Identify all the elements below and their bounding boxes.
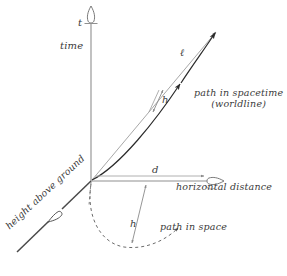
horizontal-distance-label: horizontal distance (176, 182, 272, 193)
worldline-segment-upper (181, 33, 215, 83)
h-lower-measure (132, 185, 146, 243)
time-axis-arrowhead-icon (87, 6, 94, 23)
height-axis-line-lower (17, 222, 49, 253)
d-measure-label: d (152, 164, 159, 175)
height-axis-line-upper (62, 181, 91, 209)
path-in-space-arc (90, 184, 178, 248)
spacetime-diagram: t time ℓ h path in spacetime (worldline)… (0, 0, 287, 276)
path-in-space-label: path in space (160, 222, 227, 233)
time-axis-symbol-label: t (78, 17, 82, 28)
height-axis-arrowhead-icon (48, 211, 62, 222)
worldline-label: path in spacetime (worldline) (194, 88, 283, 109)
diagram-canvas (0, 0, 287, 276)
worldline-label-sub: (worldline) (194, 99, 283, 110)
h-upper-label: h (162, 94, 169, 105)
h-upper-guide (149, 90, 159, 112)
worldline-label-main: path in spacetime (194, 87, 283, 98)
interval-length-label: ℓ (180, 47, 184, 58)
h-lower-double-arrow (132, 185, 146, 243)
h-lower-label: h (130, 218, 137, 229)
time-axis-name-label: time (60, 40, 83, 51)
time-axis (85, 6, 98, 181)
